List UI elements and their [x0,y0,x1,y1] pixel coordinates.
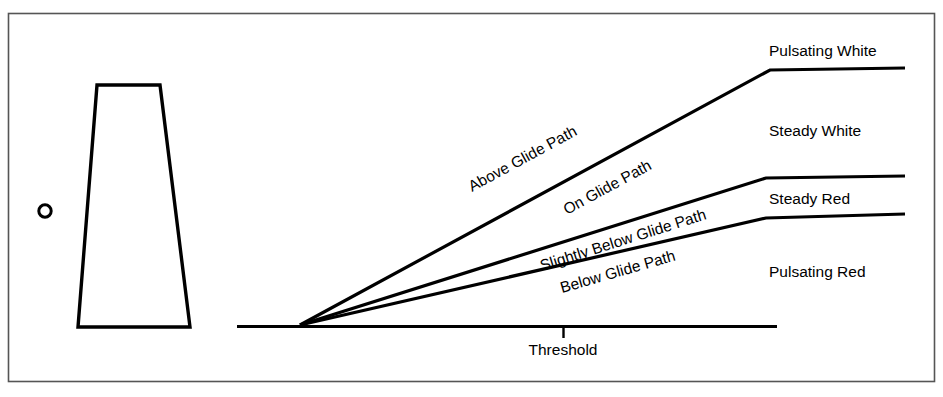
label-threshold: Threshold [529,341,598,358]
zone-label-pulsating-white: Pulsating White [769,42,877,59]
glide-path-indicator-diagram: Above Glide Path On Glide Path Slightly … [0,0,943,397]
diagram-canvas: Above Glide Path On Glide Path Slightly … [0,0,943,397]
aircraft-position-circle [39,205,51,217]
zone-label-steady-red: Steady Red [769,190,850,207]
zone-label-pulsating-red: Pulsating Red [769,263,866,280]
zone-label-steady-white: Steady White [769,122,861,139]
